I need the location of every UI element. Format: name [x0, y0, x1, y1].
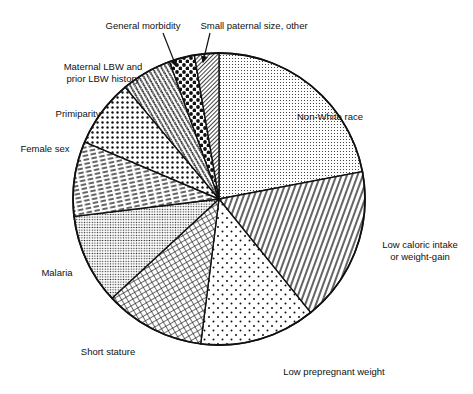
slice-label: Small paternal size, other	[200, 20, 307, 31]
slice-label: Low caloric intakeor weight-gain	[382, 239, 458, 262]
slice-label: Non-White race	[297, 111, 363, 122]
slice-label: Short stature	[81, 346, 135, 357]
slice-label: Female sex	[20, 143, 69, 154]
slice-label: General morbidity	[106, 20, 181, 31]
pie-slices	[73, 53, 365, 345]
slice-label: Primiparity	[56, 108, 101, 119]
pie-chart: Non-White raceLow caloric intakeor weigh…	[0, 0, 473, 394]
slice-label: Maternal LBW andprior LBW history	[64, 61, 143, 84]
slice-label: Low prepregnant weight	[283, 366, 385, 377]
slice-label: Malaria	[41, 267, 73, 278]
